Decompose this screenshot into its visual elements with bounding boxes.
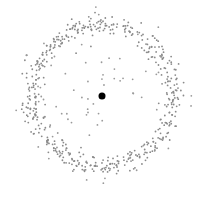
data-point xyxy=(75,165,77,167)
data-point xyxy=(24,59,26,61)
data-point xyxy=(167,80,169,82)
data-point xyxy=(116,26,118,28)
data-point xyxy=(113,23,115,25)
data-point xyxy=(52,136,54,138)
data-point xyxy=(151,46,153,48)
data-point xyxy=(145,159,147,161)
data-point xyxy=(35,64,37,66)
data-point xyxy=(65,34,67,36)
data-point xyxy=(56,39,58,41)
data-point xyxy=(58,32,60,34)
data-point xyxy=(154,149,156,151)
data-point xyxy=(144,149,146,151)
data-point xyxy=(27,107,29,109)
data-point xyxy=(170,77,172,79)
data-point xyxy=(103,167,105,169)
data-point xyxy=(90,26,92,28)
data-point xyxy=(78,21,80,23)
data-point xyxy=(104,28,106,30)
data-point xyxy=(92,168,94,170)
data-point xyxy=(81,44,83,46)
data-point xyxy=(92,103,94,105)
data-point xyxy=(71,28,73,30)
data-point xyxy=(48,158,50,160)
data-point xyxy=(38,101,40,103)
data-point xyxy=(183,82,185,84)
data-point xyxy=(127,22,129,24)
data-point xyxy=(54,140,56,142)
data-point xyxy=(174,125,176,127)
data-point xyxy=(49,49,51,51)
data-point xyxy=(166,92,168,94)
data-point xyxy=(170,120,172,122)
data-point xyxy=(50,44,52,46)
data-point xyxy=(34,115,36,117)
data-point xyxy=(43,99,45,101)
data-point xyxy=(156,39,158,41)
data-point xyxy=(131,152,133,154)
data-point xyxy=(101,120,103,122)
data-point xyxy=(170,63,172,65)
data-point xyxy=(159,128,161,130)
data-point xyxy=(173,92,175,94)
data-point xyxy=(155,61,157,63)
data-point xyxy=(160,118,162,120)
data-point xyxy=(66,113,68,115)
data-point xyxy=(176,83,178,85)
data-point xyxy=(125,27,127,29)
data-point xyxy=(87,26,89,28)
data-point xyxy=(101,162,103,164)
data-point xyxy=(29,87,31,89)
data-point xyxy=(116,155,118,157)
data-point xyxy=(160,132,162,134)
data-point xyxy=(74,26,76,28)
data-point xyxy=(33,86,35,88)
data-point xyxy=(50,65,52,67)
data-point xyxy=(165,82,167,84)
data-point xyxy=(31,76,33,78)
data-point xyxy=(33,133,35,135)
data-point xyxy=(47,139,49,141)
data-point xyxy=(112,158,114,160)
data-point xyxy=(94,26,96,28)
data-point xyxy=(53,39,55,41)
data-point xyxy=(167,76,169,78)
data-point xyxy=(94,12,96,14)
data-point xyxy=(129,151,131,153)
data-point xyxy=(98,14,100,16)
data-point xyxy=(33,85,35,87)
data-point xyxy=(47,142,49,144)
data-point xyxy=(26,106,28,108)
data-point xyxy=(123,159,125,161)
data-point xyxy=(173,104,175,106)
data-point xyxy=(46,45,48,47)
data-point xyxy=(42,60,44,62)
data-point xyxy=(29,112,31,114)
data-point xyxy=(157,129,159,131)
data-point xyxy=(38,93,40,95)
data-point xyxy=(65,162,67,164)
data-point xyxy=(82,154,84,156)
data-point xyxy=(43,77,45,79)
data-point xyxy=(29,90,31,92)
data-point xyxy=(26,54,28,56)
data-point xyxy=(146,51,148,53)
data-point xyxy=(113,78,115,80)
data-point xyxy=(37,86,39,88)
data-point xyxy=(138,41,140,43)
data-point xyxy=(107,171,109,173)
data-point xyxy=(137,33,139,35)
data-point xyxy=(23,111,25,113)
data-point xyxy=(60,43,62,45)
data-point xyxy=(86,114,88,116)
data-point xyxy=(146,141,148,143)
data-point xyxy=(40,123,42,125)
data-point xyxy=(53,47,55,49)
data-point xyxy=(39,68,41,70)
data-point xyxy=(169,122,171,124)
data-point xyxy=(162,48,164,50)
data-point xyxy=(46,143,48,145)
data-point xyxy=(90,164,92,166)
data-point xyxy=(138,32,140,34)
data-point xyxy=(41,54,43,56)
